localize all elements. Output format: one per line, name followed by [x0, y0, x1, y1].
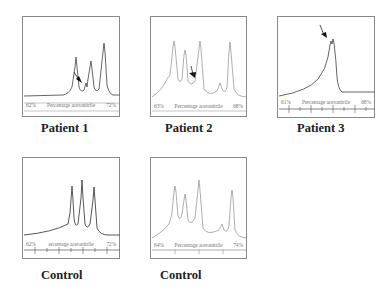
panel-caption: Patient 3 — [297, 121, 345, 136]
chromatogram-panel-patient-1: 62% Percentage acetonitrile 72% — [22, 16, 120, 117]
panel-caption: Patient 1 — [41, 121, 89, 136]
x-axis-title: Percentage acetonitrile — [164, 103, 233, 109]
chromatogram-panel-control-1: 62% ercentage acetonitrile 72% — [22, 157, 120, 259]
chromatogram-panel-patient-3: 61% Percentage acetonitrile 68% — [277, 16, 375, 118]
x-axis-max: 74% — [233, 242, 243, 248]
x-axis-label: 62% Percentage acetonitrile 72% — [23, 102, 119, 108]
panel-caption: Control — [160, 268, 201, 283]
chromatogram-panel-control-2: 64% Percentage acetonitrile 74% — [150, 157, 247, 259]
x-axis-title: ercentage acetonitrile — [36, 241, 106, 247]
x-axis-label: 63% Percentage acetonitrile 68% — [151, 103, 246, 109]
x-axis-min: 62% — [26, 102, 36, 108]
panel-caption: Patient 2 — [165, 121, 213, 136]
arrow-icon — [189, 66, 196, 78]
x-axis-label: 62% ercentage acetonitrile 72% — [23, 241, 119, 247]
x-axis-max: 68% — [233, 103, 243, 109]
x-axis-title: Percentage acetonitrile — [164, 242, 233, 248]
x-axis-title: Percentage acetonitrile — [36, 102, 106, 108]
x-axis-min: 61% — [281, 99, 291, 105]
x-axis-min: 62% — [26, 241, 36, 247]
x-axis-label: 61% Percentage acetonitrile 68% — [278, 99, 374, 105]
x-axis-max: 72% — [106, 241, 116, 247]
x-axis-max: 68% — [361, 99, 371, 105]
arrow-icon — [320, 25, 327, 38]
x-axis-min: 63% — [154, 103, 164, 109]
x-axis-label: 64% Percentage acetonitrile 74% — [151, 242, 246, 248]
chromatogram-panel-patient-2: 63% Percentage acetonitrile 68% — [150, 16, 247, 117]
x-axis-max: 72% — [106, 102, 116, 108]
x-axis-title: Percentage acetonitrile — [291, 99, 361, 105]
x-axis-min: 64% — [154, 242, 164, 248]
panel-caption: Control — [41, 268, 82, 283]
